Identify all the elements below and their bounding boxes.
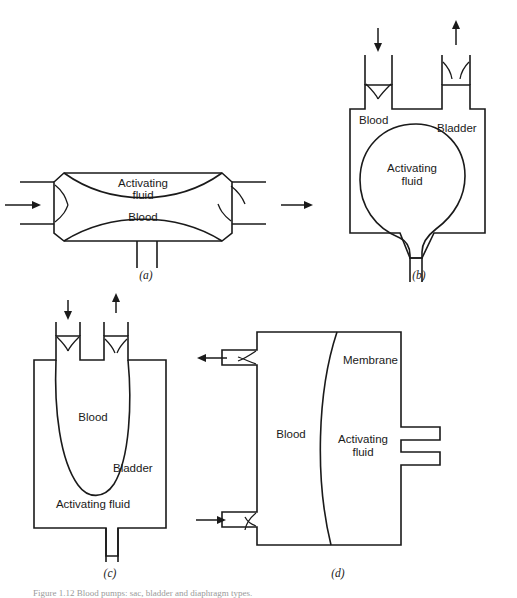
panel-a-outlet-port	[218, 182, 266, 224]
panel-c-inlet-arrow	[64, 300, 72, 320]
panel-d-membrane-curve	[320, 332, 337, 545]
panel-b-inlet-arrow	[374, 28, 382, 52]
panel-c-bottom-port	[106, 528, 118, 562]
panel-d-activating-fluid-label-line2: fluid	[352, 446, 373, 458]
panel-c-outlet-arrow	[112, 293, 120, 313]
panel-b-blood-label: Blood	[359, 114, 388, 126]
panel-b: Blood Bladder Activating fluid (b)	[350, 20, 485, 282]
figure-caption: Figure 1.12 Blood pumps: sac, bladder an…	[33, 588, 252, 598]
panel-c: Blood Bladder Activating fluid (c)	[34, 293, 166, 580]
panel-b-bladder-outline	[360, 124, 465, 258]
panel-d-blood-label: Blood	[276, 428, 305, 440]
panel-a-inlet-arrow	[5, 201, 41, 209]
panel-b-outlet-arrow	[452, 20, 460, 45]
panel-c-label: (c)	[104, 567, 117, 580]
panel-c-activating-fluid-label: Activating fluid	[56, 498, 130, 510]
panel-b-inlet-tube	[365, 55, 392, 99]
panel-a-activating-fluid-label-line1: Activating	[118, 177, 168, 189]
panel-c-blood-label: Blood	[78, 411, 107, 423]
blood-pump-figure: Activating fluid Blood (a)	[0, 0, 517, 598]
panel-a-activating-fluid-label-line2: fluid	[132, 189, 153, 201]
panel-b-bladder-label: Bladder	[437, 122, 477, 134]
panel-b-activating-fluid-label-line1: Activating	[387, 162, 437, 174]
panel-c-bladder-outline	[56, 360, 130, 495]
panel-c-outlet-tube	[104, 322, 128, 353]
panel-d-membrane-label: Membrane	[343, 354, 398, 366]
panel-d-outlet-valve	[238, 351, 256, 364]
panel-c-chamber-outline	[34, 336, 166, 556]
panel-c-bladder-label: Bladder	[113, 462, 153, 474]
panel-a-inlet-port	[20, 182, 68, 224]
panel-a: Activating fluid Blood (a)	[5, 173, 313, 282]
panel-d: Membrane Blood Activating fluid (d)	[196, 332, 440, 580]
panel-a-outlet-arrow	[281, 201, 313, 209]
panel-b-outlet-tube	[442, 55, 470, 85]
panel-a-bottom-ports	[137, 241, 157, 268]
panel-d-label: (d)	[331, 567, 345, 580]
panel-a-blood-label: Blood	[128, 211, 157, 223]
panel-b-label: (b)	[412, 269, 426, 282]
panel-a-label: (a)	[139, 269, 153, 282]
panel-b-activating-fluid-label-line2: fluid	[401, 175, 422, 187]
panel-d-activating-fluid-label-line1: Activating	[338, 433, 388, 445]
figure-container: Activating fluid Blood (a)	[0, 0, 517, 598]
